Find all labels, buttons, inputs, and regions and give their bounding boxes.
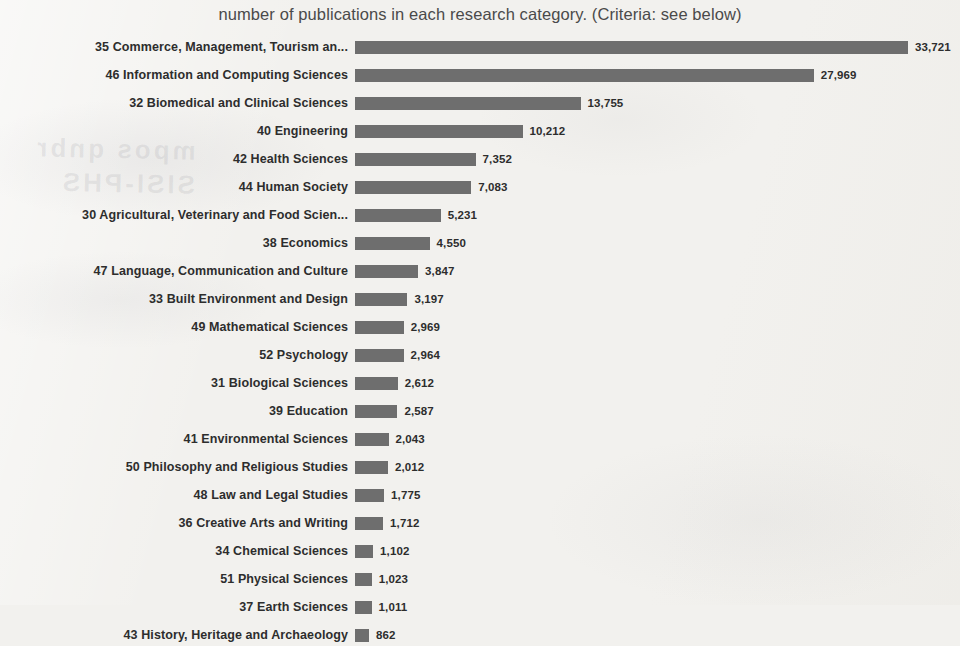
category-label: 32 Biomedical and Clinical Sciences xyxy=(129,89,348,117)
bar-value-label: 862 xyxy=(376,629,396,641)
bar-value-label: 2,587 xyxy=(404,405,433,417)
bar-track: 10,212 xyxy=(355,117,565,145)
bar xyxy=(355,545,373,558)
bar-row: 46 Information and Computing Sciences27,… xyxy=(0,61,960,89)
bar-value-label: 2,964 xyxy=(411,349,440,361)
bar-value-label: 1,023 xyxy=(379,573,408,585)
bar-value-label: 1,712 xyxy=(390,517,419,529)
category-label: 51 Physical Sciences xyxy=(220,565,348,593)
bar xyxy=(355,41,908,54)
bar xyxy=(355,405,397,418)
bar-track: 1,102 xyxy=(355,537,409,565)
category-label: 46 Information and Computing Sciences xyxy=(105,61,348,89)
bar-track: 13,755 xyxy=(355,89,623,117)
category-label: 43 History, Heritage and Archaeology xyxy=(124,621,349,646)
bar xyxy=(355,461,388,474)
bar-row: 48 Law and Legal Studies1,775 xyxy=(0,481,960,509)
category-label: 44 Human Society xyxy=(239,173,348,201)
bar-row: 50 Philosophy and Religious Studies2,012 xyxy=(0,453,960,481)
category-label: 52 Psychology xyxy=(259,341,348,369)
category-label: 50 Philosophy and Religious Studies xyxy=(126,453,348,481)
bar-track: 2,964 xyxy=(355,341,440,369)
category-label: 48 Law and Legal Studies xyxy=(193,481,348,509)
bar-row: 43 History, Heritage and Archaeology862 xyxy=(0,621,960,646)
bar-row: 52 Psychology2,964 xyxy=(0,341,960,369)
bar-value-label: 1,775 xyxy=(391,489,420,501)
category-label: 49 Mathematical Sciences xyxy=(191,313,348,341)
category-label: 33 Built Environment and Design xyxy=(149,285,348,313)
bar-value-label: 3,847 xyxy=(425,265,454,277)
bar-row: 37 Earth Sciences1,011 xyxy=(0,593,960,621)
bar xyxy=(355,517,383,530)
bar xyxy=(355,209,441,222)
bar-value-label: 33,721 xyxy=(915,41,951,53)
bar xyxy=(355,573,372,586)
bar xyxy=(355,601,372,614)
bar-row: 38 Economics4,550 xyxy=(0,229,960,257)
bar-track: 2,012 xyxy=(355,453,424,481)
category-label: 30 Agricultural, Veterinary and Food Sci… xyxy=(82,201,348,229)
bar xyxy=(355,433,389,446)
bar xyxy=(355,181,471,194)
bar-value-label: 2,012 xyxy=(395,461,424,473)
bar-value-label: 7,083 xyxy=(478,181,507,193)
bar xyxy=(355,237,430,250)
category-label: 39 Education xyxy=(269,397,348,425)
bar-value-label: 2,969 xyxy=(411,321,440,333)
category-label: 31 Biological Sciences xyxy=(211,369,348,397)
bar-row: 51 Physical Sciences1,023 xyxy=(0,565,960,593)
bar-row: 44 Human Society7,083 xyxy=(0,173,960,201)
bar-track: 2,587 xyxy=(355,397,434,425)
bar-value-label: 2,043 xyxy=(396,433,425,445)
bar-row: 34 Chemical Sciences1,102 xyxy=(0,537,960,565)
bar xyxy=(355,265,418,278)
bar-track: 2,043 xyxy=(355,425,425,453)
bar-row: 47 Language, Communication and Culture3,… xyxy=(0,257,960,285)
bar xyxy=(355,377,398,390)
category-label: 40 Engineering xyxy=(257,117,348,145)
bar-value-label: 13,755 xyxy=(588,97,624,109)
bar-row: 33 Built Environment and Design3,197 xyxy=(0,285,960,313)
chart-plot-area: 35 Commerce, Management, Tourism an...33… xyxy=(0,33,960,646)
category-label: 35 Commerce, Management, Tourism an... xyxy=(95,33,348,61)
category-label: 42 Health Sciences xyxy=(233,145,348,173)
bar-row: 31 Biological Sciences2,612 xyxy=(0,369,960,397)
bar-track: 1,712 xyxy=(355,509,419,537)
bar-row: 42 Health Sciences7,352 xyxy=(0,145,960,173)
bar-track: 3,847 xyxy=(355,257,454,285)
bar-track: 7,083 xyxy=(355,173,507,201)
bar-row: 40 Engineering10,212 xyxy=(0,117,960,145)
bar-value-label: 10,212 xyxy=(530,125,566,137)
bar-track: 1,023 xyxy=(355,565,408,593)
bar-value-label: 27,969 xyxy=(821,69,857,81)
bar-track: 862 xyxy=(355,621,396,646)
bar-track: 33,721 xyxy=(355,33,951,61)
bar-track: 1,011 xyxy=(355,593,407,621)
bar-track: 4,550 xyxy=(355,229,466,257)
bar-value-label: 2,612 xyxy=(405,377,434,389)
bar-track: 2,969 xyxy=(355,313,440,341)
bar xyxy=(355,629,369,642)
bar-value-label: 5,231 xyxy=(448,209,477,221)
bar xyxy=(355,69,814,82)
bar-value-label: 7,352 xyxy=(483,153,512,165)
category-label: 47 Language, Communication and Culture xyxy=(93,257,348,285)
bar-track: 3,197 xyxy=(355,285,444,313)
bar xyxy=(355,293,407,306)
bar xyxy=(355,349,404,362)
category-label: 36 Creative Arts and Writing xyxy=(178,509,348,537)
bar-value-label: 3,197 xyxy=(414,293,443,305)
bar-track: 5,231 xyxy=(355,201,477,229)
bar-track: 2,612 xyxy=(355,369,434,397)
bar-value-label: 4,550 xyxy=(437,237,466,249)
category-label: 34 Chemical Sciences xyxy=(215,537,348,565)
category-label: 37 Earth Sciences xyxy=(239,593,348,621)
bar-row: 30 Agricultural, Veterinary and Food Sci… xyxy=(0,201,960,229)
bar xyxy=(355,125,523,138)
category-label: 41 Environmental Sciences xyxy=(184,425,348,453)
bar xyxy=(355,321,404,334)
bar-row: 49 Mathematical Sciences2,969 xyxy=(0,313,960,341)
bar-row: 39 Education2,587 xyxy=(0,397,960,425)
bar-value-label: 1,102 xyxy=(380,545,409,557)
